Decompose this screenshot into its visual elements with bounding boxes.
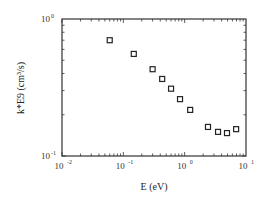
svg-text:-1: -1 bbox=[128, 159, 133, 165]
svg-text:10: 10 bbox=[116, 161, 126, 171]
data-point-square-marker bbox=[224, 131, 229, 136]
data-point-square-marker bbox=[150, 67, 155, 72]
x-axis-title: E (eV) bbox=[141, 181, 168, 193]
y-axis-title: k*E9 (cm³/s) bbox=[15, 62, 27, 114]
plot-frame bbox=[62, 19, 246, 156]
svg-text:1: 1 bbox=[251, 159, 254, 165]
svg-text:10: 10 bbox=[55, 161, 65, 171]
axis-ticks bbox=[62, 19, 246, 156]
data-point-square-marker bbox=[169, 86, 174, 91]
y-tick-label: 100 bbox=[41, 13, 54, 24]
data-point-square-marker bbox=[188, 107, 193, 112]
x-tick-label: 10-1 bbox=[116, 159, 134, 171]
svg-text:0: 0 bbox=[51, 13, 54, 19]
data-point-square-marker bbox=[216, 129, 221, 134]
data-point-square-marker bbox=[178, 97, 183, 102]
x-tick-label: 10-2 bbox=[55, 159, 73, 171]
svg-text:10: 10 bbox=[41, 151, 51, 161]
data-points bbox=[107, 38, 238, 136]
data-point-square-marker bbox=[160, 76, 165, 81]
x-tick-label: 101 bbox=[239, 159, 255, 171]
plot-border bbox=[62, 19, 246, 156]
svg-text:10: 10 bbox=[41, 14, 51, 24]
log-log-scatter-chart: 10-210-110010110-1100 E (eV) k*E9 (cm³/s… bbox=[0, 0, 264, 202]
x-tick-label: 100 bbox=[177, 159, 193, 171]
svg-text:-2: -2 bbox=[67, 159, 72, 165]
data-point-square-marker bbox=[234, 127, 239, 132]
data-point-square-marker bbox=[205, 124, 210, 129]
svg-text:0: 0 bbox=[190, 159, 193, 165]
y-tick-label: 10-1 bbox=[41, 150, 56, 161]
svg-text:10: 10 bbox=[239, 161, 249, 171]
data-point-square-marker bbox=[131, 51, 136, 56]
svg-text:10: 10 bbox=[177, 161, 187, 171]
data-point-square-marker bbox=[107, 38, 112, 43]
svg-text:-1: -1 bbox=[51, 150, 56, 156]
tick-labels: 10-210-110010110-1100 bbox=[41, 13, 254, 171]
